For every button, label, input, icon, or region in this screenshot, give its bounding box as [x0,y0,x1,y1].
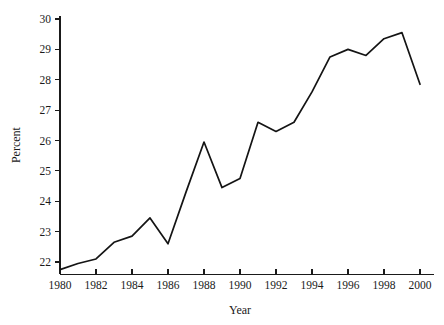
x-tick-label: 1984 [121,279,144,291]
x-tick-label: 1992 [265,279,288,291]
x-tick-label: 1982 [85,279,108,291]
x-axis-title: Year [229,303,251,317]
y-axis-title: Percent [9,126,23,163]
y-tick-label: 29 [40,43,52,55]
y-tick-label: 24 [40,195,52,207]
x-tick-label: 1996 [337,279,360,291]
y-tick-label: 22 [40,256,52,268]
x-axis-group: 1980198219841986198819901992199419961998… [49,269,435,291]
data-series-line [60,33,420,270]
x-tick-label: 1988 [193,279,216,291]
y-tick-label: 26 [40,135,52,147]
y-tick-label: 30 [40,13,52,25]
y-tick-label: 28 [40,74,52,86]
x-tick-label: 1998 [373,279,396,291]
x-tick-label: 1990 [229,279,252,291]
y-tick-label: 27 [40,104,52,116]
y-axis-group: 222324252627282930 [40,13,61,274]
x-tick-label: 1994 [301,279,324,291]
x-tick-label: 1980 [49,279,72,291]
y-axis-ticks [55,19,60,262]
y-tick-label: 25 [40,165,52,177]
line-chart: 222324252627282930 198019821984198619881… [0,0,444,325]
y-tick-label: 23 [40,226,52,238]
x-axis-tick-labels: 1980198219841986198819901992199419961998… [49,279,432,291]
x-tick-label: 2000 [409,279,432,291]
y-axis-tick-labels: 222324252627282930 [40,13,52,268]
x-axis-ticks [60,269,420,274]
chart-canvas: 222324252627282930 198019821984198619881… [0,0,444,325]
x-tick-label: 1986 [157,279,180,291]
